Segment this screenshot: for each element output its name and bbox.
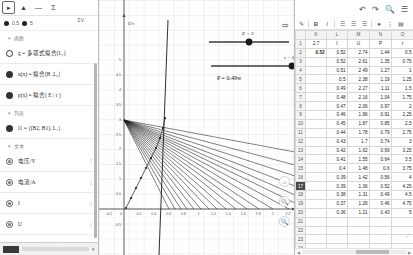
pointer-icon[interactable]: ▸ <box>2 1 15 14</box>
cell-N19[interactable]: 0.46 <box>370 199 392 208</box>
cell-L18[interactable]: 0.38 <box>327 191 348 200</box>
visibility-toggle-icon[interactable] <box>6 125 13 132</box>
cell-K1[interactable]: 2.7 <box>306 39 327 48</box>
column-header-O[interactable]: O <box>392 31 413 40</box>
cell-M16[interactable]: 1.42 <box>348 173 370 182</box>
list-item[interactable]: g = 多项式拟合(L₁) <box>0 43 98 64</box>
graph-icon[interactable]: ▲ <box>17 1 30 14</box>
cell-M6[interactable]: 2.27 <box>348 84 370 93</box>
cell-L5[interactable]: 0.5 <box>327 75 348 84</box>
visibility-toggle-icon[interactable] <box>6 50 13 57</box>
cell-K17[interactable] <box>306 182 327 191</box>
cell-N24[interactable] <box>370 244 392 248</box>
cell-N21[interactable] <box>370 217 392 226</box>
cell-N18[interactable]: 0.49 <box>370 191 392 200</box>
spreadsheet-view[interactable]: ↶ ↷ 🔍 ☰ ✎ B I ☰ ☰ ☰ ● ⋮ ▤ K <box>295 0 413 255</box>
cell-O17[interactable]: 4.25 <box>392 182 413 191</box>
sum-icon[interactable]: Σ <box>47 1 60 14</box>
row-header[interactable]: 12 <box>296 137 306 146</box>
cell-L2[interactable]: 0.52 <box>327 48 348 57</box>
cell-L11[interactable]: 0.44 <box>327 128 348 137</box>
spreadsheet-hscrollbar[interactable]: ◀ ▶ <box>295 248 413 255</box>
cell-M21[interactable] <box>348 217 370 226</box>
cell-O3[interactable]: 0.75 <box>392 57 413 66</box>
cell-N7[interactable]: 1.04 <box>370 93 392 102</box>
cell-L17[interactable]: 0.39 <box>327 182 348 191</box>
table-row[interactable]: 190.371.260.464.75 <box>296 199 413 208</box>
row-header[interactable]: 14 <box>296 155 306 164</box>
visibility-toggle-icon[interactable] <box>6 92 13 99</box>
cell-L15[interactable]: 0.4 <box>327 164 348 173</box>
scroll-left-icon[interactable]: ◀ <box>297 250 300 255</box>
cell-K21[interactable] <box>306 217 327 226</box>
row-header[interactable]: 13 <box>296 146 306 155</box>
row-header[interactable]: 5 <box>296 75 306 84</box>
row-header[interactable]: 4 <box>296 66 306 75</box>
cell-M24[interactable] <box>348 244 370 248</box>
param-value-1[interactable]: 0.5 <box>12 20 19 26</box>
row-header[interactable]: 8 <box>296 102 306 111</box>
cell-N10[interactable]: 0.85 <box>370 119 392 128</box>
resize-handle-icon[interactable]: ⤢ <box>406 232 410 239</box>
cell-O6[interactable]: 1.5 <box>392 84 413 93</box>
cell-K11[interactable] <box>306 128 327 137</box>
cell-O19[interactable]: 4.75 <box>392 199 413 208</box>
cell-M20[interactable]: 1.21 <box>348 208 370 217</box>
row-header[interactable]: 22 <box>296 226 306 235</box>
row-header[interactable]: 20 <box>296 208 306 217</box>
list-item[interactable]: I ⋮ <box>0 193 98 214</box>
color-icon[interactable]: ● <box>375 21 383 27</box>
table-row[interactable]: 22 <box>296 226 413 235</box>
cell-K12[interactable] <box>306 137 327 146</box>
cell-L24[interactable] <box>327 244 348 248</box>
chevron-down-icon[interactable]: ▾ <box>8 35 11 41</box>
cell-K24[interactable] <box>306 244 327 248</box>
search-icon[interactable]: 🔍 <box>385 5 395 14</box>
table-row[interactable]: 60.492.271.111.5 <box>296 84 413 93</box>
table-row[interactable]: 40.512.491.271 <box>296 66 413 75</box>
cell-O4[interactable]: 1 <box>392 66 413 75</box>
cell-M7[interactable]: 2.16 <box>348 93 370 102</box>
table-row[interactable]: 70.482.161.041.75 <box>296 93 413 102</box>
cell-O5[interactable]: 1.25 <box>392 75 413 84</box>
home-icon[interactable]: ⌂ <box>279 176 290 187</box>
cell-O9[interactable]: 2.25 <box>392 111 413 120</box>
cell-M13[interactable]: 1.62 <box>348 146 370 155</box>
column-header-M[interactable]: M <box>348 31 370 40</box>
cell-K23[interactable] <box>306 235 327 244</box>
cell-L20[interactable]: 0.36 <box>327 208 348 217</box>
cell-O15[interactable]: 3.75 <box>392 164 413 173</box>
zoom-in-icon[interactable]: 🔍 <box>279 196 290 207</box>
cell-K2[interactable]: 0.52 <box>306 48 327 57</box>
cell-M11[interactable]: 1.78 <box>348 128 370 137</box>
visibility-toggle-icon[interactable] <box>6 179 13 186</box>
bold-icon[interactable]: B <box>312 21 320 27</box>
chevron-down-icon[interactable]: ▾ <box>8 110 11 116</box>
table-row[interactable]: 200.361.210.435 <box>296 208 413 217</box>
cell-N8[interactable]: 0.97 <box>370 102 392 111</box>
scroll-thumb[interactable] <box>356 250 389 254</box>
table-row[interactable]: 170.391.360.524.25 <box>296 182 413 191</box>
cell-K19[interactable] <box>306 199 327 208</box>
cell-M15[interactable]: 1.48 <box>348 164 370 173</box>
cell-L23[interactable] <box>327 235 348 244</box>
list-item[interactable]: l1 = {(B2, B1), L₁} <box>0 118 98 139</box>
list-item[interactable]: 电压/V ⋮ <box>0 151 98 172</box>
list-item[interactable]: 电流/A ⋮ <box>0 172 98 193</box>
row-header[interactable]: 9 <box>296 111 306 120</box>
spreadsheet-body[interactable]: 12.7IUPr20.520.522.741.440.530.522.611.3… <box>296 39 413 248</box>
table-row[interactable]: 80.472.060.972 <box>296 102 413 111</box>
cell-N9[interactable]: 0.91 <box>370 111 392 120</box>
cell-O2[interactable]: 0.5 <box>392 48 413 57</box>
table-row[interactable]: 90.461.960.912.25 <box>296 111 413 120</box>
row-header[interactable]: 2 <box>296 48 306 57</box>
cell-L19[interactable]: 0.37 <box>327 199 348 208</box>
slider-icon[interactable]: — <box>32 1 45 14</box>
cell-M8[interactable]: 2.06 <box>348 102 370 111</box>
row-header[interactable]: 16 <box>296 173 306 182</box>
align-left-icon[interactable]: ☰ <box>338 20 346 27</box>
table-row[interactable]: 23 <box>296 235 413 244</box>
row-header[interactable]: 3 <box>296 57 306 66</box>
cell-N20[interactable]: 0.43 <box>370 208 392 217</box>
cell-K15[interactable] <box>306 164 327 173</box>
